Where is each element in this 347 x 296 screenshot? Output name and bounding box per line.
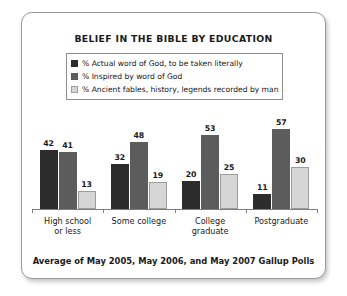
legend-item: % Ancient fables, history, legends recor…	[71, 83, 278, 96]
bar	[78, 191, 96, 209]
bar	[111, 164, 129, 209]
bar-item: 20	[182, 113, 200, 209]
legend-item: % Inspired by word of God	[71, 70, 278, 83]
bar-item: 41	[59, 113, 77, 209]
x-axis-category-label: Postgraduate	[246, 216, 317, 226]
bar	[149, 182, 167, 209]
x-axis-tick	[175, 209, 176, 213]
legend-swatch-inspired-word	[71, 73, 78, 80]
bar-value-label: 20	[186, 171, 197, 179]
bar-item: 48	[130, 113, 148, 209]
bar-value-label: 42	[43, 140, 54, 148]
bar-group: 205325	[175, 113, 246, 209]
bar-group: 324819	[103, 113, 174, 209]
bar	[40, 150, 58, 209]
chart-plot-area: 424113324819205325115730	[32, 113, 317, 209]
legend-swatch-ancient-fables	[71, 86, 78, 93]
bar-value-label: 25	[224, 164, 235, 172]
bar-value-label: 13	[81, 181, 92, 189]
bar	[201, 135, 219, 209]
bar-item: 25	[220, 113, 238, 209]
legend-label: % Inspired by word of God	[82, 73, 182, 81]
bar-value-label: 19	[152, 172, 163, 180]
bar	[272, 129, 290, 209]
legend-label: % Actual word of God, to be taken litera…	[82, 60, 243, 68]
chart-legend: % Actual word of God, to be taken litera…	[66, 53, 283, 100]
legend-label: % Ancient fables, history, legends recor…	[82, 86, 279, 94]
bar	[220, 174, 238, 209]
bar-item: 30	[291, 113, 309, 209]
bar	[291, 167, 309, 209]
bar-item: 53	[201, 113, 219, 209]
legend-swatch-actual-word	[71, 60, 78, 67]
bar-value-label: 53	[205, 125, 216, 133]
chart-footnote: Average of May 2005, May 2006, and May 2…	[22, 256, 325, 266]
bar-group: 115730	[246, 113, 317, 209]
x-axis-tick	[317, 209, 318, 213]
bar-item: 57	[272, 113, 290, 209]
bar-value-label: 32	[114, 154, 125, 162]
bar	[182, 181, 200, 209]
bar	[253, 194, 271, 209]
bar-item: 42	[40, 113, 58, 209]
bar-item: 11	[253, 113, 271, 209]
bar-group: 424113	[32, 113, 103, 209]
x-axis-tick	[246, 209, 247, 213]
bar-value-label: 11	[257, 184, 268, 192]
bar-value-label: 30	[295, 157, 306, 165]
bar-value-label: 41	[62, 142, 73, 150]
bar	[130, 142, 148, 209]
bar-item: 32	[111, 113, 129, 209]
x-axis-category-label: Some college	[103, 216, 174, 226]
x-axis-category-label: High schoolor less	[32, 216, 103, 236]
chart-card: BELIEF IN THE BIBLE BY EDUCATION % Actua…	[21, 12, 326, 279]
chart-title: BELIEF IN THE BIBLE BY EDUCATION	[22, 33, 325, 44]
bar-item: 13	[78, 113, 96, 209]
legend-item: % Actual word of God, to be taken litera…	[71, 57, 278, 70]
x-axis-tick	[32, 209, 33, 213]
bar	[59, 152, 77, 209]
x-axis-tick	[103, 209, 104, 213]
bar-value-label: 48	[133, 132, 144, 140]
x-axis-category-label: Collegegraduate	[175, 216, 246, 236]
bar-item: 19	[149, 113, 167, 209]
bar-value-label: 57	[276, 119, 287, 127]
